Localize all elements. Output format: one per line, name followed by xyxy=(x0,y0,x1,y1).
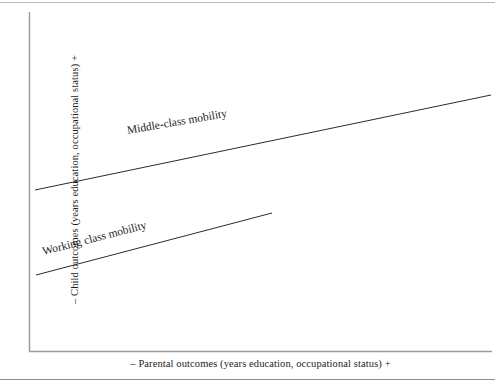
series-line-middle-class-mobility xyxy=(35,95,491,190)
y-axis-label: – Child outcomes (years education, occup… xyxy=(69,20,80,340)
mobility-line-chart: – Child outcomes (years education, occup… xyxy=(0,0,495,383)
figure-bottom-rule xyxy=(0,379,495,380)
x-axis-label: – Parental outcomes (years education, oc… xyxy=(29,358,492,369)
